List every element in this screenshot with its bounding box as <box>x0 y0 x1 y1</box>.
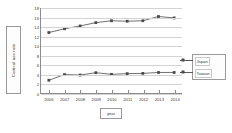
x-axis-tick <box>175 90 176 93</box>
grid-line <box>41 65 182 66</box>
legend-label-japan: Japan <box>195 57 210 66</box>
series-line-japan <box>49 17 174 33</box>
grid-line <box>41 84 182 85</box>
x-axis-tick <box>144 90 145 93</box>
data-point-marker <box>141 19 144 22</box>
grid-line <box>41 8 182 9</box>
x-axis-tick-label: 2009 <box>92 97 101 102</box>
y-axis-tick-label: 4 <box>37 72 39 77</box>
grid-line <box>41 94 182 95</box>
y-axis-tick-label: 6 <box>37 63 39 68</box>
x-axis-tick-label: 2007 <box>60 97 69 102</box>
data-point-marker <box>110 19 113 22</box>
x-axis-tick-label: 2006 <box>44 97 53 102</box>
data-point-marker <box>126 20 129 23</box>
data-series-layer <box>41 8 182 93</box>
y-axis-tick-label: 14 <box>34 25 39 30</box>
plot-area: 0246810121416182006200720082009201020112… <box>40 8 182 94</box>
x-axis-tick <box>112 90 113 93</box>
grid-line <box>41 18 182 19</box>
x-axis-tick <box>65 90 66 93</box>
y-axis-tick-label: 8 <box>37 53 39 58</box>
grid-line <box>41 27 182 28</box>
y-axis-tick-label: 12 <box>34 34 39 39</box>
data-point-marker <box>94 21 97 24</box>
legend-item-taiwan: Taiwan <box>195 68 226 79</box>
legend-item-japan: Japan <box>195 56 226 67</box>
legend-marker-japan <box>182 59 185 62</box>
y-axis-tick-label: 10 <box>34 44 39 49</box>
y-axis-title: Cortical use rate <box>6 26 21 94</box>
data-point-marker <box>157 71 160 74</box>
data-point-marker <box>47 31 50 34</box>
x-axis-tick <box>128 90 129 93</box>
x-axis-tick <box>49 90 50 93</box>
x-axis-tick-label: 2010 <box>107 97 116 102</box>
chart-canvas: Cortical use rate 0246810121416182006200… <box>0 0 232 133</box>
grid-line <box>41 75 182 76</box>
x-axis-tick-label: 2012 <box>139 97 148 102</box>
grid-line <box>41 37 182 38</box>
x-axis-tick <box>159 90 160 93</box>
x-axis-tick-label: 2013 <box>155 97 164 102</box>
x-axis-tick-label: 2011 <box>123 97 132 102</box>
legend-label-taiwan: Taiwan <box>195 69 212 78</box>
grid-line <box>41 56 182 57</box>
y-axis-tick-label: 0 <box>37 92 39 97</box>
x-axis-tick-label: 2008 <box>76 97 85 102</box>
x-axis-tick <box>96 90 97 93</box>
x-axis-tick-label: 2014 <box>170 97 179 102</box>
y-axis-tick-label: 18 <box>34 6 39 11</box>
y-axis-title-label: Cortical use rate <box>11 43 16 77</box>
x-axis-tick <box>80 90 81 93</box>
data-point-marker <box>47 79 50 82</box>
legend-marker-taiwan <box>182 71 185 74</box>
data-point-marker <box>173 71 176 74</box>
y-axis-tick-label: 16 <box>34 15 39 20</box>
x-axis-title-label: year <box>107 111 115 116</box>
data-point-marker <box>94 71 97 74</box>
y-axis-tick-label: 2 <box>37 82 39 87</box>
legend: Japan Taiwan <box>192 54 226 80</box>
grid-line <box>41 46 182 47</box>
x-axis-title: year <box>100 108 122 119</box>
